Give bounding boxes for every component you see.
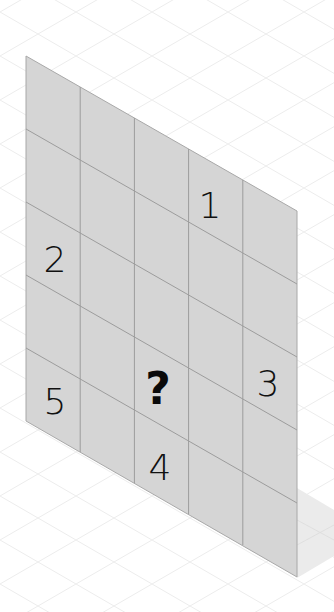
cell-r2-c0: 2 (44, 239, 67, 280)
cell-r0-c3: 1 (199, 185, 222, 226)
cell-r2-c4: 3 (257, 363, 280, 404)
cell-r4-c2: 4 (149, 447, 172, 488)
puzzle-scene: 1 2 3 ? 5 4 (0, 0, 334, 612)
cell-r4-c0: 5 (44, 381, 67, 422)
cell-r3-c2-unknown: ? (145, 363, 171, 414)
